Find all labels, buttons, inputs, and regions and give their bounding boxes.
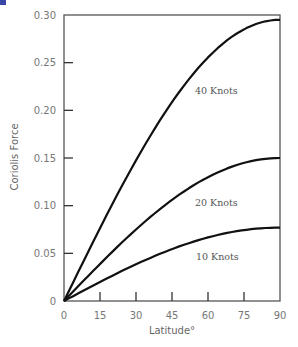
plot-border [64,15,280,301]
curve-10-knots [64,228,280,301]
y-tick-label: 0.10 [34,200,56,211]
x-tick-label: 15 [94,310,107,321]
x-tick-label: 45 [166,310,179,321]
y-tick-label: 0.15 [34,153,56,164]
y-tick-label: 0.30 [34,10,56,21]
x-tick-label: 60 [202,310,215,321]
x-tick-label: 30 [130,310,143,321]
y-tick-label: 0 [50,296,56,307]
x-tick-label: 90 [274,310,287,321]
x-axis-title: Latitude° [149,325,195,336]
y-axis-ticks: 00.050.100.150.200.250.30 [34,10,73,307]
y-tick-label: 0.05 [34,248,56,259]
y-tick-label: 0.20 [34,105,56,116]
series-label-40-knots: 40 Knots [195,85,238,96]
coriolis-chart: 00.050.100.150.200.250.30 0153045607590 … [0,0,298,347]
plot-frame [64,15,280,301]
y-axis-title: Coriolis Force [9,123,20,190]
x-tick-label: 75 [238,310,251,321]
x-tick-label: 0 [61,310,67,321]
series-curves [64,20,280,301]
series-label-20-knots: 20 Knots [195,197,238,208]
curve-40-knots [64,20,280,301]
y-tick-label: 0.25 [34,57,56,68]
x-axis-ticks: 0153045607590 [61,292,287,321]
series-label-10-knots: 10 Knots [196,251,239,262]
